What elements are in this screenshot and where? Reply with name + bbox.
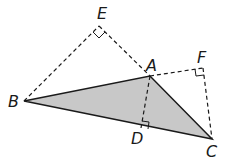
geometry-diagram [0,0,225,165]
right-angle-e-icon [93,32,105,38]
right-angle-f-icon [195,69,204,76]
label-a: A [146,58,157,74]
segment-ea [99,26,150,76]
segment-fc [203,68,212,139]
label-e: E [97,6,107,22]
label-b: B [8,94,19,110]
label-f: F [197,50,206,66]
label-c: C [206,144,217,160]
label-d: D [131,131,143,147]
triangle-abc [24,76,212,139]
